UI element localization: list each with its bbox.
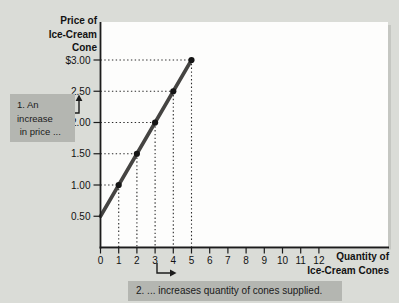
data-point-dot: [134, 151, 140, 157]
x-tick-label: 7: [225, 255, 231, 266]
x-axis-title: Quantity of Ice-Cream Cones: [259, 250, 389, 277]
data-point-dot: [170, 88, 176, 94]
supply-curve-figure: $3.002.502.001.501.000.50012345678910111…: [0, 0, 399, 303]
y-tick-label: $3.00: [65, 55, 90, 66]
data-point-dot: [152, 119, 158, 125]
x-tick-label: 1: [116, 255, 122, 266]
data-point-dot: [188, 57, 194, 63]
x-tick-label: 8: [243, 255, 249, 266]
quantity-increase-arrow: [157, 263, 171, 273]
y-tick-label: 1.00: [71, 180, 91, 191]
x-tick-label: 5: [189, 255, 195, 266]
y-axis-title-line: Cone: [0, 41, 97, 55]
annotation-line: 1. An: [17, 98, 75, 112]
y-axis-title: Price of Ice-Cream Cone: [0, 14, 97, 55]
y-axis-title-line: Price of: [0, 14, 97, 28]
plot-area: [100, 22, 388, 249]
y-tick-label: 1.50: [71, 148, 91, 159]
quantity-increase-arrowhead: [170, 270, 177, 277]
annotation-price-increase: 1. An increase in price ...: [10, 94, 75, 142]
x-tick-label: 2: [134, 255, 140, 266]
plot-area-shadow: [388, 25, 391, 250]
x-tick-label: 6: [207, 255, 213, 266]
x-axis-title-line: Quantity of: [259, 250, 389, 264]
annotation-line: increase: [17, 112, 75, 126]
x-axis-title-line: Ice-Cream Cones: [259, 264, 389, 278]
y-axis-title-line: Ice-Cream: [0, 28, 97, 42]
annotation-quantity-increase: 2. ... increases quantity of cones suppl…: [128, 281, 342, 301]
annotation-line: in price ...: [17, 125, 75, 139]
y-tick-label: 0.50: [71, 211, 91, 222]
data-point-dot: [116, 182, 122, 188]
x-tick-label: 4: [171, 255, 177, 266]
x-tick-label: 0: [98, 255, 104, 266]
